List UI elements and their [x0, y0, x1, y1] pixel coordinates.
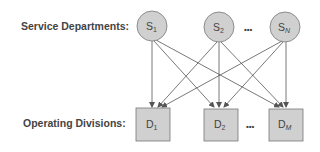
division-node-dm: DM — [269, 109, 303, 141]
service-node-sn: SN — [270, 12, 300, 42]
service-ellipsis: ••• — [244, 25, 253, 34]
division-node-d1: D1 — [136, 108, 170, 141]
division-node-d2: D2 — [204, 109, 238, 141]
edges — [152, 40, 286, 107]
division-ellipsis: ••• — [246, 122, 255, 131]
edge-s1-dm — [156, 40, 279, 107]
edge-s2-d1 — [158, 42, 217, 107]
service-node-s2: S2 — [204, 12, 234, 42]
edge-s1-d2 — [154, 41, 214, 107]
allocation-diagram: S1 S2 ••• SN D1 D2 ••• DM — [0, 0, 320, 152]
service-node-s1: S1 — [137, 11, 167, 41]
edge-sn-d1 — [162, 41, 282, 107]
